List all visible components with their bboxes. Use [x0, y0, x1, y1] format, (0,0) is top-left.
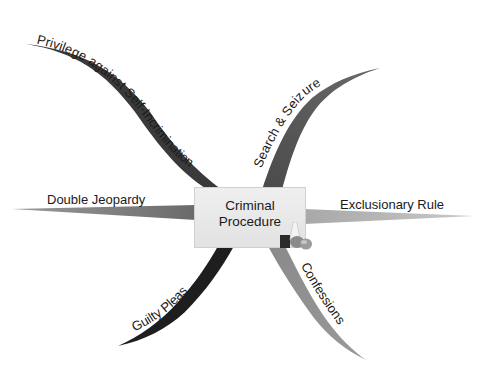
legal-objects-icon: [278, 222, 318, 252]
central-topic-line1: Criminal: [225, 198, 275, 214]
central-topic-line2: Procedure: [219, 214, 281, 230]
branch-privilege-label: Privilege against Self-Incrimination: [36, 32, 197, 170]
branch-search-seizure[interactable]: Search & Seizure: [250, 68, 380, 190]
branch-privilege-stroke: [26, 44, 222, 190]
branch-exclusionary-rule[interactable]: Exclusionary Rule: [304, 197, 474, 224]
branch-exclusionary-label: Exclusionary Rule: [340, 197, 444, 212]
branch-double-stroke: [12, 205, 196, 220]
branch-double-jeopardy[interactable]: Double Jeopardy: [12, 192, 196, 220]
branch-confessions[interactable]: Confessions: [268, 246, 366, 360]
branch-confessions-stroke: [268, 246, 366, 360]
branch-guilty-pleas[interactable]: Guilty Pleas: [118, 246, 234, 346]
branch-double-label: Double Jeopardy: [47, 192, 146, 207]
branch-privilege[interactable]: Privilege against Self-Incrimination: [26, 32, 222, 190]
